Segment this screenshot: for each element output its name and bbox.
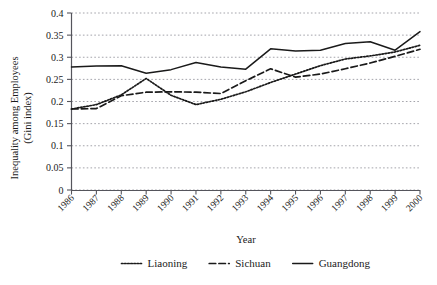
line-chart: 00.050.10.150.20.250.30.350.4 1986198719… <box>0 0 437 285</box>
y-tick-label-8: 0.4 <box>51 8 64 19</box>
legend-label-sichuan: Sichuan <box>235 257 271 269</box>
y-tick-label-0: 0 <box>59 185 64 196</box>
y-tick-label-5: 0.25 <box>46 74 64 85</box>
y-tick-label-4: 0.2 <box>51 96 64 107</box>
x-axis-label: Year <box>236 234 256 245</box>
chart-legend: LiaoningSichuanGuangdong <box>122 257 371 269</box>
y-tick-label-1: 0.05 <box>46 162 64 173</box>
y-axis-label-line2: (Gini index) <box>22 92 34 144</box>
chart-figure: 00.050.10.150.20.250.30.350.4 1986198719… <box>0 0 437 285</box>
y-tick-label-6: 0.3 <box>51 52 64 63</box>
y-tick-label-7: 0.35 <box>46 30 64 41</box>
y-tick-label-2: 0.1 <box>51 140 64 151</box>
y-tick-label-3: 0.15 <box>46 118 64 129</box>
legend-label-guangdong: Guangdong <box>319 257 371 269</box>
legend-label-liaoning: Liaoning <box>148 257 188 269</box>
y-axis-label-line1: Inequality among Employees <box>9 56 20 179</box>
